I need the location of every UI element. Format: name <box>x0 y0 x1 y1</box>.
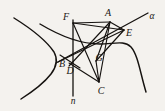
point-label-D: D <box>66 66 73 76</box>
chord-E-B <box>58 30 124 62</box>
geometry-figure: F A E B D G C α n <box>0 0 165 111</box>
figure-canvas <box>0 0 165 111</box>
point-label-F: F <box>63 12 69 22</box>
chord-F-A <box>73 22 110 23</box>
point-label-C: C <box>98 86 105 96</box>
point-label-A: A <box>105 8 111 18</box>
line-label-n: n <box>71 97 76 107</box>
point-label-G: G <box>95 53 102 63</box>
point-label-E: E <box>126 28 132 38</box>
chord-F-E <box>73 23 124 30</box>
point-label-B: B <box>59 59 65 69</box>
line-label-alpha: α <box>150 12 155 22</box>
